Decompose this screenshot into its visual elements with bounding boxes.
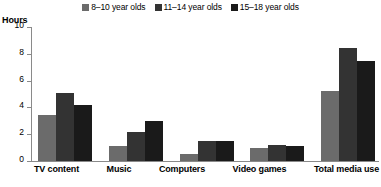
x-axis-category-labels: TV contentMusicComputersVideo gamesTotal… — [32, 165, 379, 179]
y-axis-tick: 10 — [27, 27, 31, 28]
bar — [56, 93, 74, 161]
y-axis-tick: 6 — [27, 81, 31, 82]
bar — [74, 105, 92, 161]
bar — [250, 148, 268, 161]
y-axis-tick-label: 10 — [15, 21, 24, 30]
bar-group — [321, 27, 375, 161]
grouped-bar-chart: 8–10 year olds 11–14 year olds 15–18 yea… — [0, 0, 381, 187]
legend-swatch-11-14 — [155, 4, 162, 11]
legend-label-15-18: 15–18 year olds — [240, 3, 299, 12]
bar — [268, 145, 286, 161]
y-axis-tick-label: 2 — [19, 128, 24, 137]
legend-item-8-10: 8–10 year olds — [82, 3, 145, 12]
bar — [321, 91, 339, 161]
x-axis-category-label: Video games — [233, 165, 287, 179]
bar — [286, 146, 304, 161]
plot-area: 0246810 — [31, 27, 379, 161]
bar-group — [180, 27, 234, 161]
y-axis-tick-label: 4 — [19, 101, 24, 110]
bar — [127, 132, 145, 161]
y-axis-tick: 4 — [27, 107, 31, 108]
y-axis-tick: 2 — [27, 134, 31, 135]
bar — [216, 141, 234, 161]
bar — [357, 61, 375, 162]
legend-label-11-14: 11–14 year olds — [164, 3, 222, 12]
bar-group — [38, 27, 92, 161]
y-axis-tick-label: 8 — [19, 48, 24, 57]
chart-legend: 8–10 year olds 11–14 year olds 15–18 yea… — [0, 3, 381, 12]
y-axis-tick-label: 6 — [19, 75, 24, 84]
bar-groups — [32, 27, 379, 161]
bar — [38, 115, 56, 161]
bar — [198, 141, 216, 161]
bar — [145, 121, 163, 161]
x-axis-category-label: Total media use — [314, 165, 379, 179]
x-axis-category-label: TV content — [34, 165, 79, 179]
x-axis-category-label: Computers — [159, 165, 205, 179]
bar — [109, 146, 127, 161]
bar-group — [109, 27, 163, 161]
y-axis-tick: 8 — [27, 54, 31, 55]
legend-item-15-18: 15–18 year olds — [231, 3, 299, 12]
legend-item-11-14: 11–14 year olds — [155, 3, 222, 12]
y-axis-tick: 0 — [27, 161, 31, 162]
x-axis-category-label: Music — [107, 165, 132, 179]
legend-swatch-8-10 — [82, 4, 89, 11]
bar-group — [250, 27, 304, 161]
x-axis-line — [31, 161, 379, 162]
bar — [339, 48, 357, 161]
legend-label-8-10: 8–10 year olds — [91, 3, 145, 12]
legend-swatch-15-18 — [231, 4, 238, 11]
y-axis-tick-label: 0 — [19, 155, 24, 164]
bar — [180, 154, 198, 161]
